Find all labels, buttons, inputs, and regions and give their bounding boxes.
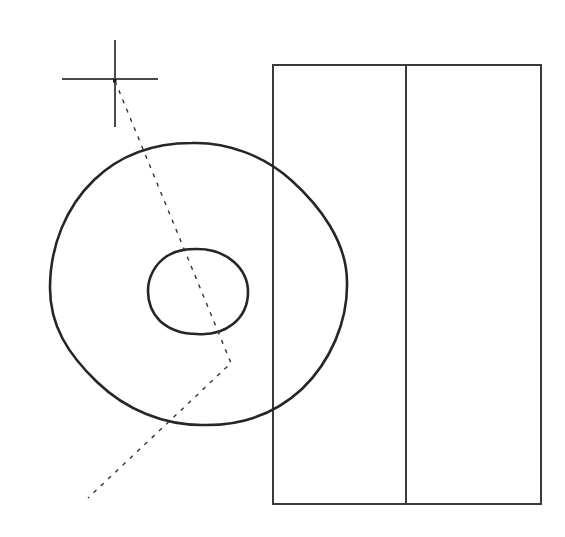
crosshair-cursor[interactable] <box>62 40 158 127</box>
rectangle-body[interactable] <box>273 65 541 504</box>
drawing-canvas[interactable] <box>0 0 565 537</box>
technical-drawing-svg <box>0 0 565 537</box>
crosshair-center-point <box>113 79 117 83</box>
inner-circle[interactable] <box>148 249 248 334</box>
outer-circle[interactable] <box>50 143 347 425</box>
